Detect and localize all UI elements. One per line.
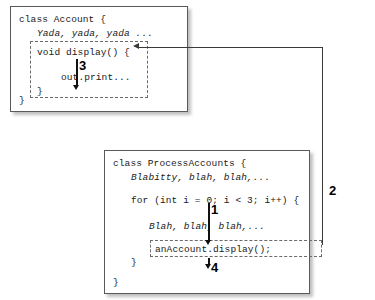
step-1-label: 1 xyxy=(211,203,218,216)
account-class-closing-brace: } xyxy=(19,95,25,106)
step-marker-2: 2 xyxy=(329,184,336,197)
method-call-region: anAccount.display(); xyxy=(150,240,322,257)
call-connector-vertical-line xyxy=(322,47,323,245)
call-connector-horizontal-line xyxy=(138,47,323,48)
step-3-label: 3 xyxy=(79,59,86,72)
display-method-region: void display() { out.print... } xyxy=(30,41,148,98)
method-call-statement: anAccount.display(); xyxy=(155,244,271,255)
account-filler-text: Yada, yada, yada ... xyxy=(37,28,153,39)
process-filler-text: Blabitty, blah, blah,... xyxy=(131,172,270,183)
process-accounts-class-box: class ProcessAccounts { Blabitty, blah, … xyxy=(104,150,310,294)
display-method-body: out.print... xyxy=(61,72,131,83)
display-method-closing-brace: } xyxy=(37,86,43,97)
display-method-signature: void display() { xyxy=(37,47,130,58)
step-4-label: 4 xyxy=(211,261,218,274)
step-1-arrow-head xyxy=(205,240,211,245)
for-loop-closing-brace: } xyxy=(131,257,137,268)
step-1-arrow-stem xyxy=(208,203,210,241)
step-3-arrow-stem xyxy=(76,59,78,86)
step-3-arrow-head xyxy=(73,85,79,90)
account-class-declaration: class Account { xyxy=(19,14,106,25)
call-connector-arrowhead xyxy=(133,43,139,49)
process-class-closing-brace: } xyxy=(113,277,119,288)
step-2-label: 2 xyxy=(329,183,336,198)
diagram-canvas: class Account { Yada, yada, yada ... } v… xyxy=(0,0,375,300)
process-class-declaration: class ProcessAccounts { xyxy=(113,158,246,169)
